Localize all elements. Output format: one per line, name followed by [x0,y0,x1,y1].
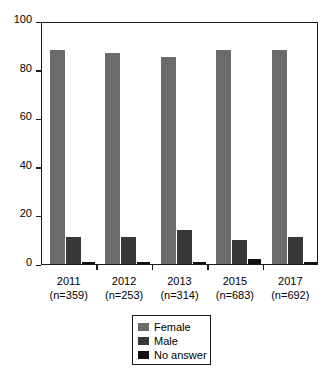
bar-no-answer [137,262,150,264]
bar-group [153,21,208,264]
plot-area [41,22,318,265]
x-label-sample-size: (n=359) [41,288,96,302]
x-axis-label: 2012(n=253) [96,274,151,302]
y-tick-label: 20 [20,208,32,219]
legend-item-male: Male [138,334,210,348]
x-label-sample-size: (n=683) [207,288,262,302]
x-axis-label: 2011(n=359) [41,274,96,302]
x-axis-tick [207,265,209,270]
bar-female [105,53,120,264]
y-tick-label: 60 [20,111,32,122]
bar-no-answer [193,262,206,264]
chart-legend: FemaleMaleNo answer [132,315,211,365]
legend-swatch-icon [138,351,149,359]
y-tick-label: 40 [20,160,32,171]
x-label-sample-size: (n=692) [263,288,318,302]
y-tick-label: 80 [20,63,32,74]
bar-chart-figure: 020406080100 2011(n=359)2012(n=253)2013(… [0,0,332,379]
bar-male [232,240,247,264]
legend-label: Female [154,322,191,333]
bar-male [177,230,192,264]
bar-male [66,237,81,264]
bar-group [42,21,97,264]
x-axis-tick [152,265,154,270]
bar-male [288,237,303,264]
x-label-year: 2012 [96,274,151,288]
bar-female [161,57,176,264]
bar-group [97,21,152,264]
bar-female [272,50,287,264]
x-label-year: 2011 [41,274,96,288]
x-axis-tick [263,265,265,270]
x-label-year: 2013 [152,274,207,288]
y-tick-label: 0 [26,257,32,268]
legend-item-female: Female [138,320,210,334]
legend-item-no-answer: No answer [138,348,210,362]
x-axis-label: 2013(n=314) [152,274,207,302]
bar-no-answer [82,262,95,264]
bar-group [208,21,263,264]
bar-male [121,237,136,264]
bar-no-answer [248,259,261,264]
x-label-sample-size: (n=314) [152,288,207,302]
bar-female [50,50,65,264]
legend-label: No answer [154,350,207,361]
x-label-sample-size: (n=253) [96,288,151,302]
bar-no-answer [304,262,317,264]
x-axis-tick [96,265,98,270]
bar-group [264,21,319,264]
legend-label: Male [154,336,178,347]
x-label-year: 2017 [263,274,318,288]
legend-swatch-icon [138,337,149,345]
y-tick-label: 100 [14,14,32,25]
legend-swatch-icon [138,323,149,331]
bar-female [216,50,231,264]
x-axis-label: 2015(n=683) [207,274,262,302]
x-label-year: 2015 [207,274,262,288]
x-axis-label: 2017(n=692) [263,274,318,302]
